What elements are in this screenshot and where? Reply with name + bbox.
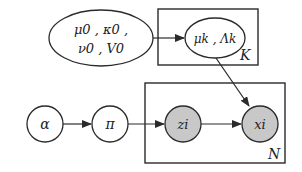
node-hyperparameters: μ0 , κ0 , ν0 , V0 xyxy=(49,10,153,66)
x-label: xi xyxy=(254,117,266,132)
mu-lambda-label: μk , Λk xyxy=(194,32,236,46)
node-pi: π xyxy=(92,106,128,142)
node-mu-lambda: μk , Λk xyxy=(185,18,245,58)
node-x: xi xyxy=(242,106,278,142)
node-alpha: α xyxy=(27,106,63,142)
graphical-model-diagram: K N μ0 , κ0 , ν0 , V0 μk , Λk α π zi xyxy=(0,0,302,172)
node-z: zi xyxy=(165,106,201,142)
hyper-line1: μ0 , κ0 , xyxy=(74,22,128,37)
pi-label: π xyxy=(104,116,115,132)
alpha-label: α xyxy=(40,116,50,132)
plate-K-label: K xyxy=(239,47,252,63)
hyper-line2: ν0 , V0 xyxy=(78,41,124,56)
z-label: zi xyxy=(176,117,188,132)
plate-N-label: N xyxy=(267,146,281,162)
